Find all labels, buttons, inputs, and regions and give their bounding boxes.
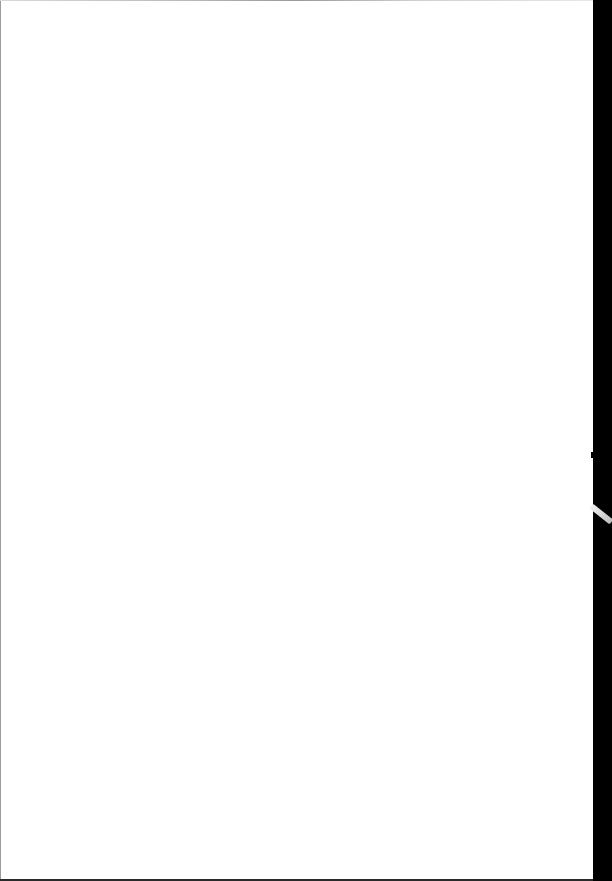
blank-page [0,0,593,881]
scanned-document [0,0,612,881]
scan-notch-artifact [591,452,594,458]
scanner-border-band [593,0,612,881]
page-top-edge [0,0,593,1]
page-left-edge [0,0,1,881]
